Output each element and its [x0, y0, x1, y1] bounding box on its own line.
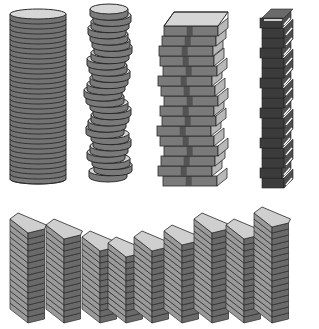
book-stack [157, 12, 228, 186]
wobbly-coin-stack [84, 4, 132, 182]
ingot-stack [194, 213, 231, 323]
dark-block-tower [260, 9, 293, 188]
coin-column-stack [10, 9, 66, 184]
ingot-stack [10, 213, 47, 323]
ingot-stacks-row [10, 207, 291, 323]
stacks-illustration [0, 0, 319, 329]
ingot-stack [46, 219, 83, 323]
ingot-stack [254, 207, 291, 323]
